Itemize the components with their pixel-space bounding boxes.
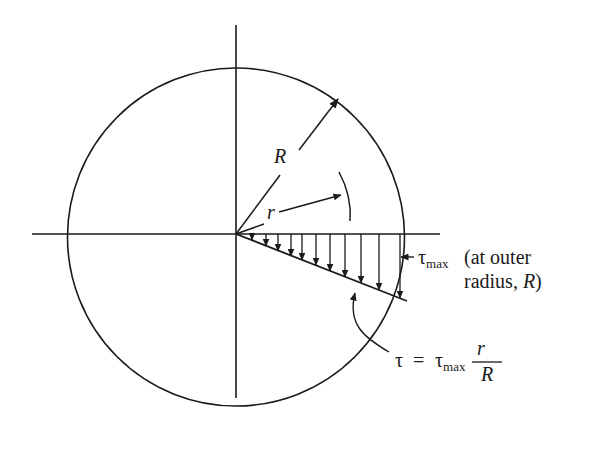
tau-max-symbol: τ <box>418 246 426 268</box>
shear-stress-formula: τ = τmax r R <box>395 337 502 385</box>
formula-equals: = <box>413 349 424 371</box>
tau-max-note-line1: (at outer <box>464 246 532 269</box>
formula-denominator: R <box>480 363 493 385</box>
torsion-stress-diagram: R r τmax (at outer radius, R) τ = τmax r… <box>0 0 592 453</box>
tau-max-note-line2: radius, R) <box>464 270 542 293</box>
formula-tau: τ <box>435 349 443 371</box>
stress-arrows <box>252 234 400 298</box>
radius-label: r <box>267 201 275 223</box>
tau-max-note-prefix: radius, <box>464 270 523 292</box>
outer-radius-arrow <box>299 99 338 150</box>
outer-radius-label: R <box>273 145 286 167</box>
tau-max-note-var: R <box>522 270 535 292</box>
formula-leader-arrow <box>353 293 389 352</box>
radius-arc <box>339 172 350 221</box>
formula-numerator: r <box>477 337 485 359</box>
formula-lhs: τ <box>395 349 403 371</box>
tau-max-note-suffix: ) <box>535 270 542 293</box>
formula-subscript: max <box>443 359 466 374</box>
radius-arrow <box>279 195 341 212</box>
formula-tau-max: τmax <box>435 349 466 374</box>
tau-max-label: τmax <box>418 246 449 271</box>
tau-max-subscript: max <box>426 256 449 271</box>
stress-distribution-line <box>236 234 407 301</box>
